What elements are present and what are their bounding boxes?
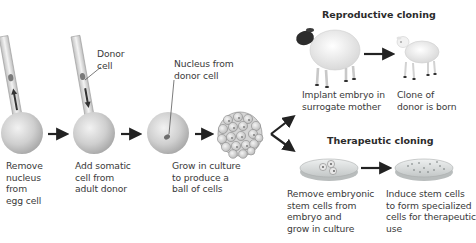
- reproductive-cloning-heading: Reproductive cloning: [322, 9, 436, 20]
- branch-arrows: [271, 117, 293, 150]
- callout-line: cell: [97, 60, 124, 72]
- surrogate-sheep: [294, 28, 360, 88]
- label-line: Remove embryonic: [287, 188, 374, 200]
- label-line: to produce a: [172, 172, 241, 184]
- donor-cell-callout: Donor cell: [97, 48, 124, 71]
- label-line: nucleus: [6, 172, 43, 184]
- step-add-somatic-label: Add somatic cell from adult donor: [75, 160, 131, 195]
- label-line: Add somatic: [75, 160, 131, 172]
- step-remove-nucleus-label: Remove nucleus from egg cell: [6, 160, 43, 206]
- label-line: surrogate mother: [302, 101, 385, 113]
- callout-line: Donor: [97, 48, 124, 60]
- label-line: Nucleus from: [174, 58, 234, 70]
- remove-embryonic-label: Remove embryonic stem cells from embryo …: [287, 188, 374, 234]
- label-line: grow in culture: [287, 223, 374, 235]
- label-line: Clone of: [397, 89, 456, 101]
- label-line: embryo and: [287, 211, 374, 223]
- therapeutic-cloning-heading: Therapeutic cloning: [327, 135, 434, 146]
- label-line: egg cell: [6, 195, 43, 207]
- clone-born-label: Clone of donor is born: [397, 89, 456, 112]
- ball-of-cells: [217, 112, 263, 158]
- label-line: cells for therapeutic: [386, 211, 476, 223]
- petri-dish-embryonic: [300, 159, 358, 181]
- label-line: to form specialized: [386, 200, 476, 212]
- clone-lamb: [397, 37, 440, 81]
- label-line: Induce stem cells: [386, 188, 476, 200]
- label-line: donor is born: [397, 101, 456, 113]
- label-line: from: [6, 183, 43, 195]
- induce-stem-cells-label: Induce stem cells to form specialized ce…: [386, 188, 476, 234]
- label-line: Grow in culture: [172, 160, 241, 172]
- egg-cell-1: [0, 36, 43, 154]
- step-grow-culture-label: Grow in culture to produce a ball of cel…: [172, 160, 241, 195]
- label-line: adult donor: [75, 183, 131, 195]
- label-line: cell from: [75, 172, 131, 184]
- label-line: Remove: [6, 160, 43, 172]
- label-line: ball of cells: [172, 183, 241, 195]
- petri-dish-specialized: [395, 159, 453, 181]
- implant-embryo-label: Implant embryo in surrogate mother: [302, 89, 385, 112]
- label-line: stem cells from: [287, 200, 374, 212]
- nucleus-callout: Nucleus from donor cell: [174, 58, 234, 81]
- egg-cell-with-nucleus: [147, 112, 189, 154]
- label-line: use: [386, 223, 476, 235]
- label-line: donor cell: [174, 70, 234, 82]
- label-line: Implant embryo in: [302, 89, 385, 101]
